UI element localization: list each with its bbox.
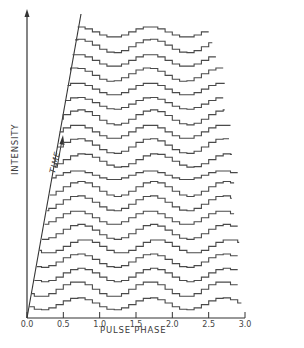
pulse-trace	[40, 240, 240, 253]
pulse-profile-plot	[0, 0, 304, 348]
x-tick-label: 0.5	[57, 320, 70, 329]
phase-axis	[27, 312, 245, 318]
pulse-trace	[45, 211, 235, 224]
pulse-trace	[52, 171, 238, 180]
x-tick-label: 1.5	[130, 320, 143, 329]
x-tick-label: 2.5	[202, 320, 215, 329]
pulse-trace	[32, 282, 238, 296]
pulse-trace	[60, 125, 231, 138]
pulse-trace	[70, 68, 223, 81]
pulse-trace	[34, 268, 237, 282]
x-tick-label: 3.0	[239, 320, 252, 329]
pulse-trace	[42, 224, 238, 239]
x-tick-label: 2.0	[166, 320, 179, 329]
intensity-axis	[25, 9, 30, 318]
pulse-trace	[65, 98, 223, 110]
pulse-trace	[62, 110, 224, 125]
y-axis-label: INTENSITY	[10, 124, 20, 175]
pulse-trace	[68, 83, 225, 94]
x-tick-label: 1.0	[93, 320, 106, 329]
pulse-trace	[73, 55, 216, 66]
pulse-trace	[47, 196, 232, 211]
pulse-trace	[50, 182, 234, 197]
pulse-traces	[29, 27, 241, 310]
pulse-trace	[29, 298, 241, 310]
pulse-trace	[75, 39, 212, 52]
pulse-trace	[78, 27, 209, 37]
arrow-up-icon	[25, 9, 30, 17]
pulse-trace	[57, 139, 229, 154]
pulse-trace	[55, 154, 232, 167]
x-tick-label: 0.0	[21, 320, 34, 329]
pulse-trace	[37, 254, 238, 267]
